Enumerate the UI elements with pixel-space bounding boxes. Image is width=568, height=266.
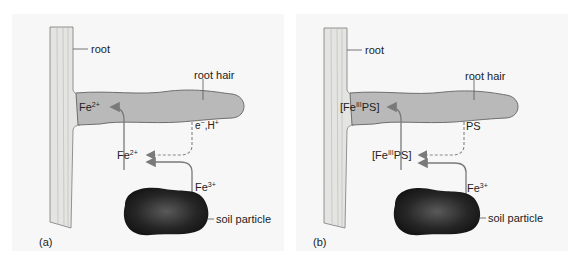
secreted-label-a: e−,H+: [195, 121, 219, 131]
root-hair-label-b: root hair: [465, 71, 505, 82]
root-a: [50, 27, 80, 228]
soil-particle-label-a: soil particle: [216, 214, 271, 225]
panel-label-b: (b): [313, 237, 326, 248]
inside-species-a: Fe2+: [79, 102, 100, 113]
root-label-b: root: [365, 45, 384, 56]
soil-particle-a: [124, 188, 209, 236]
root-hair-label-a: root hair: [194, 70, 234, 81]
root-label-a: root: [91, 44, 110, 55]
inside-species-b: [FeIIIPS]: [340, 102, 379, 113]
soil-species-a: Fe3+: [195, 182, 216, 193]
root-b: [324, 28, 354, 228]
soil-particle-label-b: soil particle: [488, 213, 543, 224]
root-hair-a: [76, 90, 244, 125]
outside-species-b: [FeIIIPS]: [372, 150, 411, 161]
panel-label-a: (a): [39, 237, 52, 248]
secreted-label-b: PS: [466, 121, 481, 132]
panel-a-graphics: [50, 27, 244, 235]
soil-particle-b: [394, 188, 480, 235]
outside-species-a: Fe2+: [117, 150, 138, 161]
panel-b-graphics: [324, 28, 518, 235]
soil-species-b: Fe3+: [467, 183, 488, 194]
